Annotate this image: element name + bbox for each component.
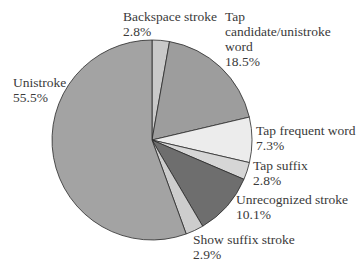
label-value: 2.8% bbox=[253, 173, 308, 188]
label-value: 10.1% bbox=[236, 207, 348, 222]
label-text: word bbox=[225, 39, 331, 54]
label-value: 2.9% bbox=[193, 247, 295, 262]
label-value: 55.5% bbox=[13, 90, 66, 105]
label-text: Unrecognized stroke bbox=[236, 192, 348, 207]
label-tap-frequent-word: Tap frequent word 7.3% bbox=[256, 123, 356, 153]
label-text: Show suffix stroke bbox=[193, 232, 295, 247]
label-value: 7.3% bbox=[256, 138, 356, 153]
label-unrecognized-stroke: Unrecognized stroke 10.1% bbox=[236, 192, 348, 222]
label-show-suffix-stroke: Show suffix stroke 2.9% bbox=[193, 232, 295, 262]
label-text: Tap suffix bbox=[253, 158, 308, 173]
label-value: 18.5% bbox=[225, 54, 331, 69]
label-text: Tap frequent word bbox=[256, 123, 356, 138]
label-backspace-stroke: Backspace stroke 2.8% bbox=[123, 9, 217, 39]
label-unistroke: Unistroke 55.5% bbox=[13, 75, 66, 105]
label-text: candidate/unistroke bbox=[225, 24, 331, 39]
label-text: Backspace stroke bbox=[123, 9, 217, 24]
label-value: 2.8% bbox=[123, 24, 217, 39]
label-tap-candidate: Tap candidate/unistroke word 18.5% bbox=[225, 9, 331, 69]
label-tap-suffix: Tap suffix 2.8% bbox=[253, 158, 308, 188]
label-text: Tap bbox=[225, 9, 331, 24]
label-text: Unistroke bbox=[13, 75, 66, 90]
